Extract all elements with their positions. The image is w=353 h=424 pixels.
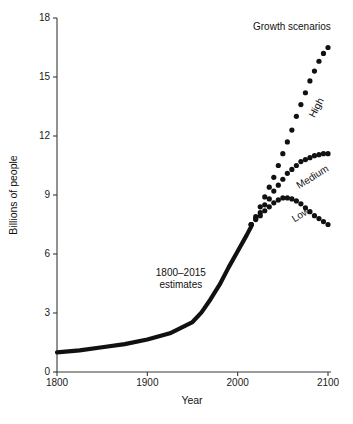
series-dot-low	[312, 213, 317, 218]
series-dot-low	[262, 208, 267, 213]
x-axis-ticks: 1800190020002100	[46, 372, 340, 388]
y-tick-label: 9	[44, 189, 50, 200]
series-dot-high	[271, 175, 276, 180]
series-dot-high	[316, 59, 321, 64]
series-dot-low	[316, 216, 321, 221]
x-tick-label: 2100	[317, 377, 340, 388]
series-dot-medium	[294, 163, 299, 168]
series-dot-low	[258, 213, 263, 218]
series-dot-low	[271, 200, 276, 205]
series-dot-medium	[271, 188, 276, 193]
series-dot-medium	[312, 153, 317, 158]
y-tick-label: 18	[39, 12, 51, 23]
annotations-group: 1800–2015estimatesGrowth scenariosHighMe…	[156, 21, 331, 290]
series-dot-high	[294, 114, 299, 119]
series-dot-medium	[276, 183, 281, 188]
series-dot-low	[253, 217, 258, 222]
series-dot-high	[325, 45, 330, 50]
y-tick-label: 12	[39, 130, 51, 141]
series-dot-high	[307, 78, 312, 83]
series-dot-high	[285, 139, 290, 144]
series-dot-low	[249, 222, 254, 227]
y-axis-title: Billions of people	[7, 155, 19, 235]
series-dot-low	[325, 222, 330, 227]
series-dot-medium	[321, 151, 326, 156]
x-tick-label: 1800	[46, 377, 69, 388]
series-dot-high	[267, 185, 272, 190]
chart-canvas: 0369121518 1800190020002100 1800–2015est…	[0, 0, 353, 424]
series-dot-high	[298, 102, 303, 107]
y-tick-label: 15	[39, 71, 51, 82]
series-dot-low	[289, 196, 294, 201]
series-dot-high	[280, 151, 285, 156]
x-tick-label: 1900	[136, 377, 159, 388]
series-dot-medium	[325, 151, 330, 156]
y-axis-ticks: 0369121518	[39, 12, 57, 377]
series-dot-high	[276, 163, 281, 168]
medium-label: Medium	[294, 163, 330, 191]
series-dot-low	[294, 198, 299, 203]
series-dot-high	[289, 128, 294, 133]
estimates-label: 1800–2015estimates	[156, 267, 206, 290]
series-dot-low	[276, 197, 281, 202]
x-tick-label: 2000	[227, 377, 250, 388]
y-tick-label: 6	[44, 248, 50, 259]
y-tick-label: 0	[44, 366, 50, 377]
series-dot-low	[321, 219, 326, 224]
series-dot-medium	[289, 167, 294, 172]
series-dot-low	[267, 204, 272, 209]
series-dot-high	[258, 204, 263, 209]
series-dot-medium	[298, 159, 303, 164]
data-series-group	[57, 45, 331, 352]
x-axis-title: Year	[181, 394, 203, 406]
population-growth-chart: 0369121518 1800190020002100 1800–2015est…	[0, 0, 353, 424]
series-dot-medium	[307, 155, 312, 160]
high-label: High	[306, 96, 325, 119]
series-dot-medium	[285, 171, 290, 176]
series-dot-medium	[267, 196, 272, 201]
y-tick-label: 3	[44, 307, 50, 318]
series-dot-medium	[316, 152, 321, 157]
low-label: Low	[290, 205, 312, 224]
series-dot-medium	[262, 202, 267, 207]
series-dot-high	[303, 90, 308, 95]
growth-scenarios-label: Growth scenarios	[253, 21, 331, 32]
series-dot-medium	[280, 177, 285, 182]
series-dot-low	[280, 195, 285, 200]
series-dot-high	[312, 69, 317, 74]
series-dot-low	[285, 195, 290, 200]
series-dot-high	[321, 51, 326, 56]
series-line-estimates	[57, 226, 251, 352]
series-dot-medium	[303, 157, 308, 162]
series-dot-high	[262, 194, 267, 199]
